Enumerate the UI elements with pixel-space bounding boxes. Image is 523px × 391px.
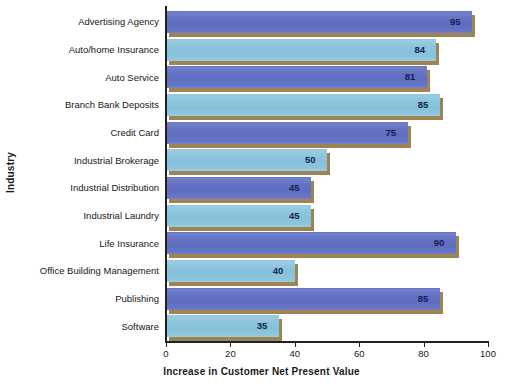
- bar-group: 45: [166, 177, 315, 199]
- category-axis-labels: Advertising AgencyAuto/home InsuranceAut…: [22, 8, 163, 340]
- category-label: Branch Bank Deposits: [65, 98, 159, 111]
- bar: [166, 66, 427, 88]
- category-label: Credit Card: [110, 126, 159, 139]
- bar-group: 85: [166, 94, 444, 116]
- category-label: Office Building Management: [40, 264, 159, 277]
- bar-group: 81: [166, 66, 431, 88]
- x-axis-tick: [359, 342, 360, 347]
- category-label: Industrial Distribution: [70, 181, 159, 194]
- bar-value-label: 35: [257, 315, 268, 337]
- bar-value-label: 84: [414, 39, 425, 61]
- bar-value-label: 85: [418, 288, 429, 310]
- bar-value-label: 45: [289, 205, 300, 227]
- bar: [166, 11, 472, 33]
- bar-value-label: 40: [273, 260, 284, 282]
- x-axis-tick: [424, 342, 425, 347]
- bar-value-label: 75: [386, 122, 397, 144]
- bar: [166, 122, 408, 144]
- bar-group: 75: [166, 122, 412, 144]
- x-axis-line: [165, 341, 489, 343]
- bar: [166, 39, 436, 61]
- bar-value-label: 50: [305, 149, 316, 171]
- x-axis-tick-label: 0: [163, 348, 168, 359]
- category-label: Software: [122, 320, 160, 333]
- bar: [166, 94, 440, 116]
- bar-value-label: 85: [418, 94, 429, 116]
- category-label: Industrial Brokerage: [74, 154, 159, 167]
- bar: [166, 149, 327, 171]
- plot-area: 958481857550454590408535: [166, 8, 488, 340]
- x-axis-tick: [295, 342, 296, 347]
- category-label: Advertising Agency: [78, 15, 159, 28]
- chart-screenshot: Industry Advertising AgencyAuto/home Ins…: [0, 0, 523, 391]
- bar: [166, 232, 456, 254]
- x-axis-tick: [166, 342, 167, 347]
- bar: [166, 288, 440, 310]
- category-label: Industrial Laundry: [83, 209, 159, 222]
- x-axis-tick-label: 80: [418, 348, 429, 359]
- bar-group: 95: [166, 11, 476, 33]
- bar-group: 40: [166, 260, 299, 282]
- bar-group: 50: [166, 149, 331, 171]
- bar-group: 35: [166, 315, 283, 337]
- x-axis-tick: [230, 342, 231, 347]
- bar-group: 85: [166, 288, 444, 310]
- x-axis-tick-label: 20: [225, 348, 236, 359]
- bar-group: 84: [166, 39, 440, 61]
- x-axis-tick: [488, 342, 489, 347]
- bar-group: 45: [166, 205, 315, 227]
- category-label: Auto/home Insurance: [69, 43, 159, 56]
- x-axis-title: Increase in Customer Net Present Value: [0, 366, 523, 377]
- x-axis-tick-label: 40: [290, 348, 301, 359]
- category-label: Auto Service: [105, 71, 159, 84]
- x-axis-tick-label: 100: [480, 348, 496, 359]
- x-axis-tick-label: 60: [354, 348, 365, 359]
- y-axis-line: [165, 6, 167, 342]
- category-label: Publishing: [115, 292, 159, 305]
- bar-value-label: 81: [405, 66, 416, 88]
- bar-value-label: 45: [289, 177, 300, 199]
- y-axis-title: Industry: [0, 0, 22, 345]
- bar-value-label: 90: [434, 232, 445, 254]
- category-label: Life Insurance: [99, 237, 159, 250]
- bar-value-label: 95: [450, 11, 461, 33]
- bar-group: 90: [166, 232, 460, 254]
- y-axis-title-text: Industry: [6, 152, 17, 193]
